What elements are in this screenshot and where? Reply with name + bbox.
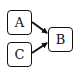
node-b-label: B [56, 32, 66, 47]
edge-c-to-b [32, 43, 47, 53]
node-c-label: C [15, 47, 25, 62]
node-a-label: A [15, 15, 24, 30]
edge-a-to-b [32, 22, 47, 33]
node-b[interactable]: B [48, 27, 73, 52]
node-a[interactable]: A [7, 10, 32, 35]
node-c[interactable]: C [7, 42, 32, 67]
